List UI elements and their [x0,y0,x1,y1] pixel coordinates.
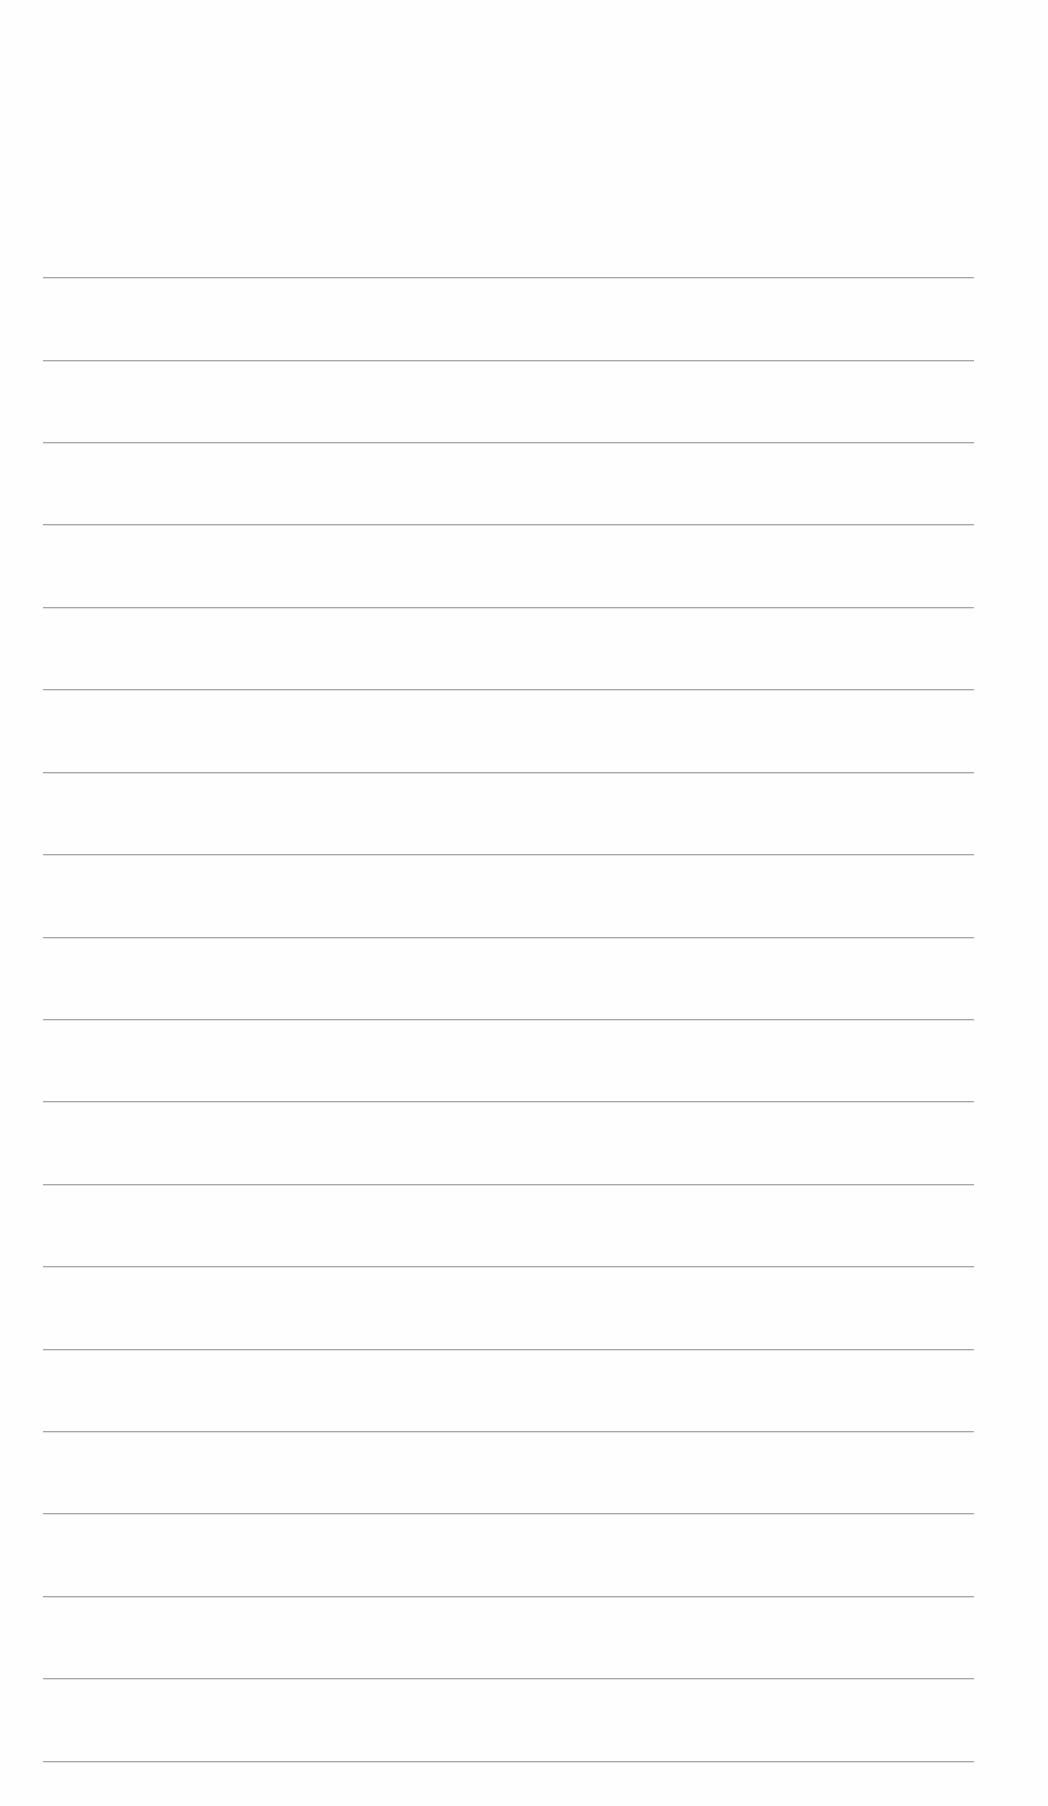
ruled-line [43,772,974,773]
ruled-line [43,1184,974,1185]
ruled-line [43,360,974,361]
ruled-line [43,937,974,938]
ruled-line [43,1678,974,1679]
ruled-line [43,854,974,855]
ruled-line [43,524,974,525]
ruled-line [43,277,974,278]
ruled-line [43,1761,974,1762]
ruled-line [43,1513,974,1514]
ruled-line [43,1596,974,1597]
ruled-line [43,1101,974,1102]
ruled-line [43,689,974,690]
ruled-line [43,1266,974,1267]
ruled-line [43,1431,974,1432]
ruled-line [43,1019,974,1020]
ruled-paper-page [0,0,1048,1806]
ruled-line [43,1349,974,1350]
ruled-line [43,607,974,608]
ruled-line [43,442,974,443]
